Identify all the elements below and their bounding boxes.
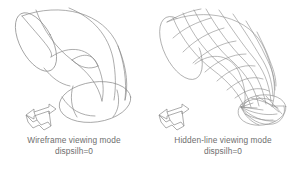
caption-wireframe-line2: dispsilh=0 xyxy=(0,146,148,157)
caption-hiddenline-line1: Hidden-line viewing mode xyxy=(149,135,297,146)
lower-opening-inner-rim xyxy=(62,97,95,116)
caption-wireframe: Wireframe viewing mode dispsilh=0 xyxy=(0,135,148,156)
panel-hiddenline: Hidden-line viewing mode dispsilh=0 xyxy=(149,0,297,175)
ucs-axis-icon xyxy=(156,103,192,131)
caption-hiddenline-line2: dispsilh=0 xyxy=(149,146,297,157)
upper-opening-ellipse xyxy=(7,6,65,78)
elbow-mid-cross-seam xyxy=(72,55,98,68)
ucs-axis-icon xyxy=(23,103,59,131)
caption-hiddenline: Hidden-line viewing mode dispsilh=0 xyxy=(149,135,297,156)
ucs-axis-icon-hiddenline xyxy=(156,103,192,131)
figure-container: Wireframe viewing mode dispsilh=0 xyxy=(0,0,297,175)
caption-wireframe-line1: Wireframe viewing mode xyxy=(0,135,148,146)
lower-opening-ellipse xyxy=(57,77,134,127)
panel-wireframe: Wireframe viewing mode dispsilh=0 xyxy=(0,0,148,175)
elbow-inner-bend-arc xyxy=(44,68,70,86)
ucs-axis-icon-wireframe xyxy=(23,103,59,131)
lower-opening-mesh xyxy=(241,100,285,125)
